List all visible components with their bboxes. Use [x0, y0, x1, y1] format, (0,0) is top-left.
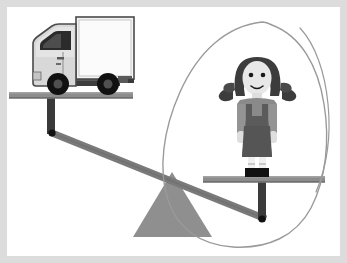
girl-eye-left — [249, 73, 254, 78]
left-support-post — [47, 96, 56, 137]
girl-eye-right — [261, 73, 266, 78]
girl-shoe-right — [257, 168, 269, 177]
girl-face — [243, 61, 272, 95]
delivery-truck — [33, 17, 134, 95]
balance-illustration-canvas — [0, 0, 347, 263]
girl-figure — [219, 57, 297, 177]
left-pivot-dot — [48, 129, 55, 136]
left-platform-plank — [9, 92, 133, 99]
illustration-scene — [0, 0, 347, 263]
right-support-post — [258, 180, 266, 223]
girl-shoe-left — [245, 168, 257, 177]
right-pivot-dot — [258, 215, 265, 222]
